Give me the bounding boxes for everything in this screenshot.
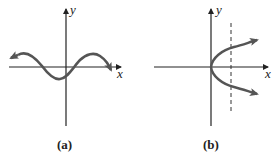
panel-b [154,9,268,126]
caption-b: (b) [203,137,219,153]
figure-canvas [0,0,273,165]
x-axis-label: x [117,66,123,82]
parabola-upper-branch [211,40,257,67]
parabola-lower-branch [211,67,257,94]
sine-curve-left-arrow [11,55,18,58]
y-axis-label: y [70,2,76,18]
panel-a [9,9,121,126]
caption-a: (a) [57,137,72,153]
y-axis-label: y [216,2,222,18]
sine-curve [18,53,111,79]
x-axis-label: x [265,66,271,82]
